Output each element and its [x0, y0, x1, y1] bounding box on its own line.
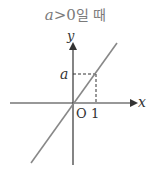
x-axis-label: x — [138, 94, 146, 110]
y-axis-label: y — [66, 28, 75, 43]
y-tick-label-a: a — [60, 66, 68, 82]
origin-label: O — [76, 106, 87, 121]
coordinate-plane: y x a O 1 — [0, 0, 151, 172]
x-tick-label-1: 1 — [91, 106, 99, 121]
